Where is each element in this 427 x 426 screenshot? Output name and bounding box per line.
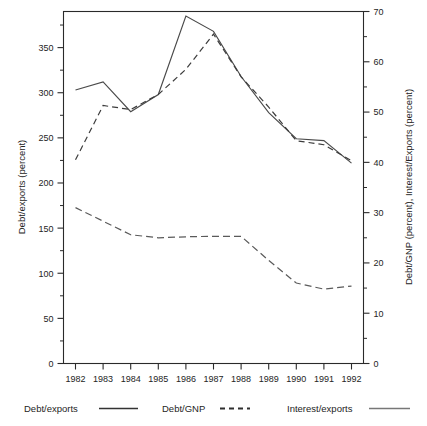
series-line-debt-exports — [76, 16, 352, 163]
right-tick-label: 50 — [374, 107, 384, 117]
x-tick-label: 1986 — [176, 374, 196, 384]
right-tick-label: 20 — [374, 258, 384, 268]
legend-label-debt-gnp: Debt/GNP — [162, 403, 205, 414]
x-tick-label: 1990 — [286, 374, 306, 384]
right-tick-label: 0 — [374, 359, 379, 369]
right-axis-ticks — [364, 12, 370, 364]
right-tick-label: 30 — [374, 208, 384, 218]
right-tick-label: 10 — [374, 309, 384, 319]
x-tick-label: 1992 — [341, 374, 361, 384]
x-tick-label: 1989 — [259, 374, 279, 384]
x-tick-label: 1984 — [121, 374, 141, 384]
left-tick-label: 300 — [38, 88, 53, 98]
left-tick-label: 350 — [38, 43, 53, 53]
x-tick-label: 1987 — [203, 374, 223, 384]
left-axis-title: Debt/exports (percent) — [16, 140, 27, 235]
left-tick-label: 100 — [38, 269, 53, 279]
left-tick-label: 150 — [38, 224, 53, 234]
legend-label-interest-exports: Interest/exports — [287, 403, 353, 414]
x-tick-label: 1991 — [314, 374, 334, 384]
right-tick-label: 70 — [374, 7, 384, 17]
x-tick-label: 1983 — [93, 374, 113, 384]
chart-svg: 050100150200250300350 010203040506070 19… — [0, 0, 427, 426]
chart-figure: 050100150200250300350 010203040506070 19… — [0, 0, 427, 426]
plot-frame — [64, 12, 364, 364]
left-tick-label: 0 — [48, 359, 53, 369]
left-tick-label: 50 — [43, 314, 53, 324]
legend-label-debt-exports: Debt/exports — [24, 403, 78, 414]
right-axis-title: Debt/GNP (percent), Interest/Exports (pe… — [403, 89, 414, 285]
right-tick-label: 60 — [374, 57, 384, 67]
left-axis-ticks — [58, 25, 64, 363]
right-axis-tick-labels: 010203040506070 — [374, 7, 384, 369]
x-tick-label: 1982 — [65, 374, 85, 384]
x-tick-label: 1985 — [148, 374, 168, 384]
left-tick-label: 250 — [38, 133, 53, 143]
x-axis-tick-labels: 1982198319841985198619871988198919901991… — [65, 374, 361, 384]
x-axis-ticks — [76, 364, 352, 370]
left-axis-tick-labels: 050100150200250300350 — [38, 43, 53, 369]
left-tick-label: 200 — [38, 178, 53, 188]
x-tick-label: 1988 — [231, 374, 251, 384]
right-tick-label: 40 — [374, 158, 384, 168]
series-line-interest-exports — [76, 208, 352, 289]
chart-legend: Debt/exports Debt/GNP Interest/exports — [24, 403, 410, 414]
